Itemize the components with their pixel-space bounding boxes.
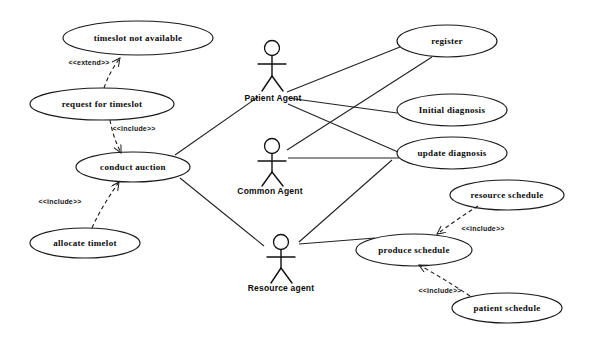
use-case-ellipse-allocate-timelot[interactable] [30, 228, 140, 258]
use-case-ellipse-resource-schedule[interactable] [450, 180, 564, 210]
actor-figure-patient-agent[interactable] [258, 41, 286, 92]
actor-figure-common-agent[interactable] [258, 139, 286, 187]
diagram-vector-layer: timeslot not available --> conduct aucti… [0, 0, 597, 339]
use-case-ellipses [30, 21, 564, 323]
dependency-include-resource-schedule[interactable] [437, 206, 478, 234]
association-lines [175, 47, 432, 246]
use-case-diagram-canvas: timeslot not available --> conduct aucti… [0, 0, 597, 339]
association-resource-conduct-auction [180, 178, 264, 246]
use-case-ellipse-timeslot-not-available[interactable] [63, 21, 213, 55]
association-resource-produce-schedule [299, 160, 392, 242]
actor-figures [258, 41, 295, 284]
use-case-ellipse-register[interactable] [397, 25, 497, 57]
association-patient-conduct-auction [175, 97, 258, 155]
use-case-ellipse-patient-schedule[interactable] [452, 293, 562, 323]
association-resource-produce-schedule-2 [299, 238, 375, 244]
use-case-ellipse-conduct-auction[interactable] [76, 152, 190, 182]
use-case-ellipse-produce-schedule[interactable] [356, 234, 472, 266]
association-patient-register [287, 47, 400, 92]
use-case-ellipse-request-for-timeslot[interactable] [30, 88, 174, 120]
dependency-include-patient-schedule[interactable] [419, 265, 470, 296]
dependency-include-allocate-timelot[interactable] [92, 182, 119, 228]
actor-figure-resource-agent[interactable] [267, 235, 295, 284]
use-case-ellipse-initial-diagnosis[interactable] [397, 94, 507, 126]
use-case-ellipse-update-diagnosis[interactable] [397, 137, 507, 169]
dependency-arrows: timeslot not available --> conduct aucti… [92, 58, 478, 296]
dependency-extend-timeslot-not-available[interactable] [104, 58, 120, 88]
association-common-register [287, 57, 432, 150]
dependency-include-conduct-auction[interactable] [110, 120, 121, 153]
